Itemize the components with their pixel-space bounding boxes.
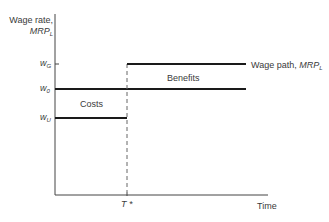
y-axis-sub: L: [50, 31, 53, 37]
wage-path-text: Wage path,: [251, 60, 299, 70]
tick-wu: wU: [40, 112, 51, 125]
benefits-label: Benefits: [167, 73, 200, 83]
y-axis-label: Wage rate, MRPL: [7, 15, 53, 39]
wage-path-sub: L: [319, 65, 322, 71]
tick-wg-sub: G: [47, 63, 52, 69]
tick-wg: wG: [40, 58, 51, 71]
tstar-label: T *: [121, 199, 133, 209]
y-axis-mrp: MRP: [30, 26, 50, 36]
y-axis-label-line2: MRPL: [7, 26, 53, 39]
tick-wu-sub: U: [47, 117, 51, 123]
wage-path-mrp: MRP: [299, 60, 319, 70]
tick-w0-sub: 0: [47, 88, 50, 94]
wage-path-label: Wage path, MRPL: [251, 60, 323, 73]
tick-w0: w0: [40, 83, 50, 96]
y-axis-label-line1: Wage rate,: [7, 15, 53, 25]
x-axis-label: Time: [257, 201, 277, 211]
costs-label: Costs: [80, 99, 103, 109]
